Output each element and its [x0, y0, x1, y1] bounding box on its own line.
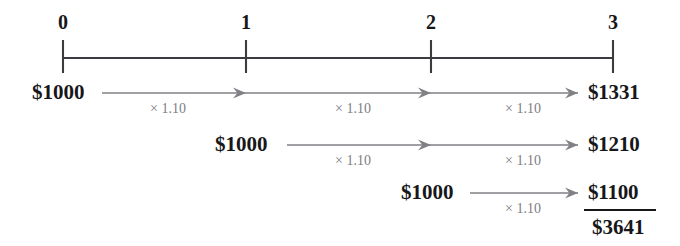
axis-tick-label-3: 3 [608, 12, 618, 32]
axis-tick-label-2: 2 [426, 12, 436, 32]
timeline-graphics [0, 0, 680, 246]
row-period-2-end-amount: $1100 [588, 182, 638, 203]
axis-tick-label-0: 0 [58, 12, 68, 32]
row-period-1-end-amount: $1210 [588, 134, 640, 155]
compound-interest-timeline-diagram: 0123 $1000$1331$1000$1210$1000$1100 × 1.… [0, 0, 680, 246]
timeline-axis [63, 40, 613, 73]
total-amount: $3641 [592, 217, 645, 238]
row-period-0-multiplier-2: × 1.10 [335, 102, 371, 116]
axis-tick-label-1: 1 [241, 12, 251, 32]
row-period-0-multiplier-3: × 1.10 [505, 102, 541, 116]
row-period-0-start-amount: $1000 [32, 82, 85, 103]
row-period-0-end-amount: $1331 [588, 82, 640, 103]
row-period-1-multiplier-2: × 1.10 [505, 154, 541, 168]
row-period-1-start-amount: $1000 [215, 134, 268, 155]
row-period-0-multiplier-1: × 1.10 [150, 102, 186, 116]
row-period-2-multiplier-1: × 1.10 [505, 202, 541, 216]
row-period-2-start-amount: $1000 [401, 182, 454, 203]
row-period-1-multiplier-1: × 1.10 [335, 154, 371, 168]
